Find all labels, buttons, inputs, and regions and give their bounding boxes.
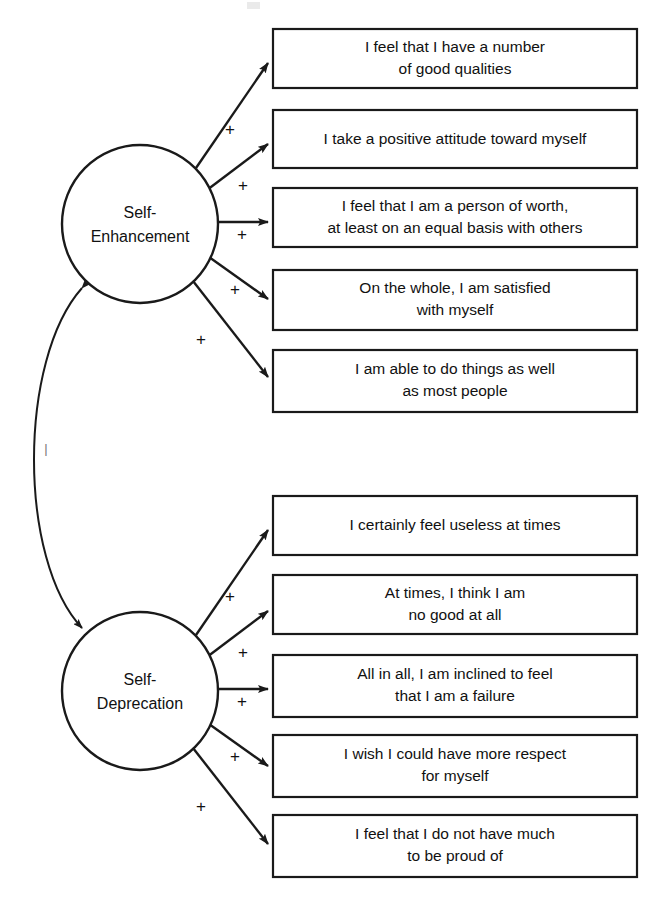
construct-label-line1: Self- — [124, 204, 157, 221]
construct-label-line2: Deprecation — [97, 695, 183, 712]
indicator-box[interactable]: I wish I could have more respect for mys… — [273, 735, 637, 797]
box-text-line: At times, I think I am — [385, 584, 525, 601]
path-sign-label: + — [225, 587, 235, 606]
box-text-line: I wish I could have more respect — [344, 745, 567, 762]
construct-self-deprecation[interactable]: Self- Deprecation — [62, 612, 218, 770]
indicator-box[interactable]: I feel that I am a person of worth, at l… — [273, 188, 637, 247]
ellipse-self-deprecation[interactable] — [62, 612, 218, 770]
correlation-label: | — [44, 441, 47, 456]
path-sign-label: + — [196, 797, 206, 816]
box-text-line: I feel that I do not have much — [355, 825, 555, 842]
path-sign-label: + — [238, 176, 248, 195]
box-text-line: as most people — [402, 382, 507, 399]
diagram-canvas: Self- Enhancement Self- Deprecation I fe… — [0, 0, 665, 919]
indicator-box[interactable]: I take a positive attitude toward myself — [273, 110, 637, 168]
box-text-line: I feel that I am a person of worth, — [342, 197, 569, 214]
path-sign-label: + — [225, 120, 235, 139]
box-text-line: with myself — [416, 301, 494, 318]
path-sign-label: + — [238, 643, 248, 662]
box-text-line: no good at all — [408, 606, 501, 623]
box-text-line: to be proud of — [407, 847, 503, 864]
indicator-box[interactable]: I am able to do things as well as most p… — [273, 350, 637, 412]
indicator-box[interactable]: I certainly feel useless at times — [273, 496, 637, 555]
path-sign-label: + — [237, 692, 247, 711]
ellipse-self-enhancement[interactable] — [62, 145, 218, 303]
path-sign-label: + — [230, 747, 240, 766]
box-text-line: of good qualities — [399, 60, 512, 77]
path-diagram: Self- Enhancement Self- Deprecation I fe… — [0, 0, 665, 919]
box-text-line: I take a positive attitude toward myself — [324, 130, 587, 147]
box-text-line: I am able to do things as well — [355, 360, 555, 377]
indicator-box[interactable]: I feel that I have a number of good qual… — [273, 29, 637, 88]
box-text-line: All in all, I am inclined to feel — [357, 665, 553, 682]
path-sign-label: + — [237, 225, 247, 244]
path-sign-label: + — [230, 280, 240, 299]
path-sign-label: + — [196, 330, 206, 349]
indicator-box[interactable]: On the whole, I am satisfied with myself — [273, 270, 637, 330]
box-text-line: On the whole, I am satisfied — [359, 279, 550, 296]
construct-self-enhancement[interactable]: Self- Enhancement — [62, 145, 218, 303]
box-text-line: that I am a failure — [395, 687, 515, 704]
construct-label-line1: Self- — [124, 671, 157, 688]
box-text-line: at least on an equal basis with others — [327, 219, 582, 236]
construct-label-line2: Enhancement — [91, 228, 190, 245]
indicator-box[interactable]: All in all, I am inclined to feel that I… — [273, 655, 637, 717]
box-text-line: I certainly feel useless at times — [349, 516, 560, 533]
scan-artifact — [247, 2, 260, 9]
indicator-box[interactable]: At times, I think I am no good at all — [273, 575, 637, 634]
box-text-line: for myself — [421, 767, 489, 784]
correlation-curve — [34, 288, 82, 628]
indicator-box[interactable]: I feel that I do not have much to be pro… — [273, 815, 637, 877]
box-text-line: I feel that I have a number — [365, 38, 545, 55]
